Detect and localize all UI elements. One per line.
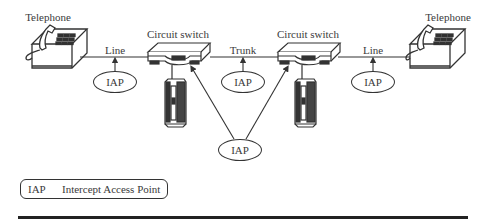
server-left-icon — [165, 79, 186, 127]
server-right-icon — [295, 79, 316, 127]
iap-switches: IAP — [218, 139, 262, 161]
telephone-right-icon — [406, 25, 465, 68]
bottom-rule — [18, 216, 468, 219]
iap-trunk: IAP — [221, 71, 265, 93]
telephone-right-label: Telephone — [425, 12, 471, 23]
legend-abbr: IAP — [28, 183, 62, 195]
circuit-switch-left-label: Circuit switch — [147, 29, 209, 40]
circuit-switch-right-label: Circuit switch — [277, 29, 339, 40]
line-left-label: Line — [105, 45, 125, 56]
telephone-left-icon — [26, 25, 87, 68]
circuit-switch-left-icon — [148, 43, 210, 65]
legend-text: Intercept Access Point — [62, 183, 160, 195]
trunk-label: Trunk — [230, 45, 257, 56]
legend-box: IAP Intercept Access Point — [20, 179, 168, 199]
iap-line-left: IAP — [93, 71, 137, 93]
line-right-label: Line — [363, 45, 383, 56]
iap-line-right: IAP — [351, 71, 395, 93]
telephone-left-label: Telephone — [25, 12, 71, 23]
circuit-switch-right-icon — [278, 43, 340, 65]
